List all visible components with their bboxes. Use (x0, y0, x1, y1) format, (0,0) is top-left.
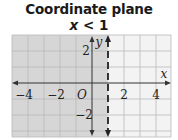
x-tick-neg4: −4 (15, 88, 33, 102)
coordinate-plane: −4 −2 O 2 4 2 −2 y x (0, 0, 178, 140)
x-tick-4: 4 (152, 88, 160, 102)
x-tick-2: 2 (120, 88, 128, 102)
y-axis-label: y (95, 35, 103, 49)
x-tick-neg2: −2 (47, 88, 65, 102)
y-tick-2: 2 (82, 44, 90, 58)
y-tick-neg2: −2 (75, 108, 93, 122)
x-axis-label: x (161, 67, 168, 81)
origin-label: O (77, 88, 87, 102)
